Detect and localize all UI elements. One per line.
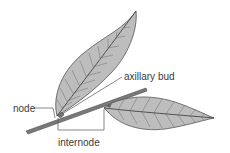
label-axillary-bud: axillary bud xyxy=(124,71,175,82)
node-leader xyxy=(34,108,55,118)
label-node: node xyxy=(13,103,36,114)
lower-leaf xyxy=(104,97,214,130)
plant-diagram: axillary bud node internode xyxy=(0,0,230,153)
label-internode: internode xyxy=(58,137,100,148)
